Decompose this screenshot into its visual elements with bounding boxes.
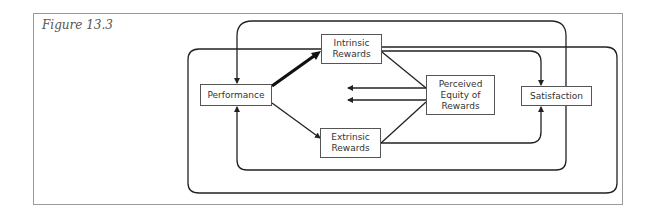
node-extrinsic-rewards: Extrinsic Rewards bbox=[320, 128, 381, 158]
node-perceived-equity: Perceived Equity of Rewards bbox=[426, 75, 495, 115]
figure-page: Figure 13.3 bbox=[0, 0, 655, 216]
node-performance: Performance bbox=[200, 84, 272, 106]
performance-to-intrinsic-heavy bbox=[272, 56, 314, 86]
diagram-connectors bbox=[0, 0, 655, 216]
node-intrinsic-rewards: Intrinsic Rewards bbox=[321, 34, 382, 64]
node-satisfaction: Satisfaction bbox=[521, 86, 592, 106]
intrinsic-to-equity bbox=[382, 52, 426, 88]
performance-to-extrinsic bbox=[272, 103, 320, 138]
bottom-loop-satisfaction-to-performance bbox=[237, 106, 566, 170]
extrinsic-to-equity bbox=[381, 102, 426, 143]
